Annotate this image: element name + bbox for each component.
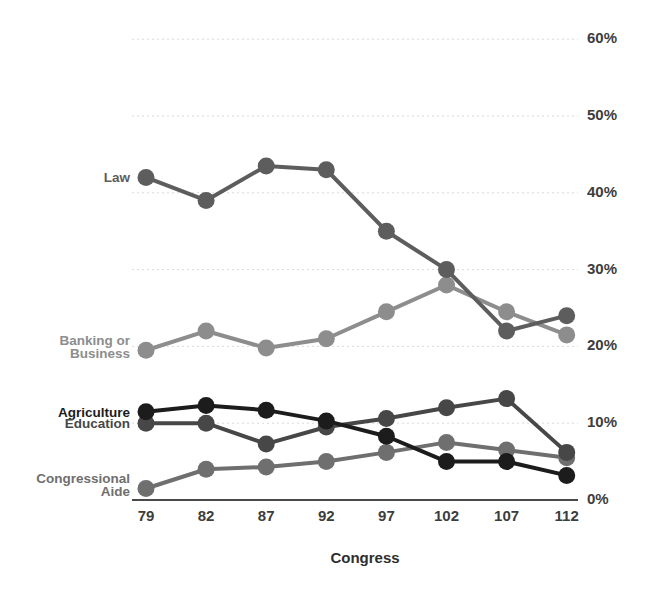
- data-point[interactable]: [378, 428, 395, 445]
- x-axis-tick-labels: 7982879297102107112: [138, 507, 579, 524]
- y-tick-label: 60%: [587, 29, 617, 46]
- data-point[interactable]: [258, 458, 275, 475]
- data-point[interactable]: [318, 412, 335, 429]
- data-point[interactable]: [438, 453, 455, 470]
- data-point[interactable]: [138, 342, 155, 359]
- data-point[interactable]: [498, 453, 515, 470]
- y-tick-label: 40%: [587, 183, 617, 200]
- y-tick-label: 10%: [587, 413, 617, 430]
- data-point[interactable]: [198, 461, 215, 478]
- data-point[interactable]: [318, 453, 335, 470]
- series-label-education: Education: [65, 416, 130, 431]
- x-tick-label: 112: [555, 507, 579, 524]
- x-tick-label: 107: [494, 507, 519, 524]
- data-point[interactable]: [138, 169, 155, 186]
- y-tick-label: 20%: [587, 336, 617, 353]
- data-point[interactable]: [258, 435, 275, 452]
- x-axis-title: Congress: [330, 549, 399, 566]
- data-point[interactable]: [378, 410, 395, 427]
- data-point[interactable]: [438, 261, 455, 278]
- data-point[interactable]: [378, 223, 395, 240]
- data-point[interactable]: [558, 326, 575, 343]
- y-tick-label: 50%: [587, 106, 617, 123]
- series-label-law: Law: [104, 170, 131, 185]
- data-point[interactable]: [438, 434, 455, 451]
- data-point[interactable]: [558, 444, 575, 461]
- data-point[interactable]: [318, 161, 335, 178]
- data-point[interactable]: [198, 192, 215, 209]
- series-label-banking-or-business: Banking orBusiness: [59, 333, 130, 361]
- data-point[interactable]: [258, 339, 275, 356]
- data-point[interactable]: [438, 399, 455, 416]
- line-chart: 0%10%20%30%40%50%60% 7982879297102107112…: [0, 0, 646, 598]
- chart-canvas: 0%10%20%30%40%50%60% 7982879297102107112…: [0, 0, 646, 598]
- series-inline-labels: LawBanking orBusinessAgricultureEducatio…: [36, 170, 131, 499]
- data-point[interactable]: [198, 397, 215, 414]
- x-tick-label: 87: [258, 507, 275, 524]
- x-tick-label: 97: [378, 507, 395, 524]
- data-point[interactable]: [558, 307, 575, 324]
- data-point[interactable]: [138, 403, 155, 420]
- data-point[interactable]: [498, 390, 515, 407]
- data-point[interactable]: [198, 323, 215, 340]
- data-point[interactable]: [438, 276, 455, 293]
- x-tick-label: 92: [318, 507, 335, 524]
- gridlines-group: [132, 39, 578, 423]
- x-tick-label: 82: [198, 507, 215, 524]
- data-point[interactable]: [258, 157, 275, 174]
- data-point[interactable]: [558, 467, 575, 484]
- y-tick-label: 30%: [587, 260, 617, 277]
- data-point[interactable]: [498, 303, 515, 320]
- data-point[interactable]: [138, 480, 155, 497]
- series-label-congressional-aide: CongressionalAide: [36, 471, 130, 499]
- data-point[interactable]: [258, 402, 275, 419]
- data-point[interactable]: [318, 330, 335, 347]
- y-axis-tick-labels: 0%10%20%30%40%50%60%: [587, 29, 617, 507]
- x-tick-label: 79: [138, 507, 155, 524]
- x-tick-label: 102: [434, 507, 459, 524]
- data-point[interactable]: [198, 415, 215, 432]
- data-point[interactable]: [378, 444, 395, 461]
- y-tick-label: 0%: [587, 490, 609, 507]
- data-point[interactable]: [378, 303, 395, 320]
- data-point[interactable]: [498, 323, 515, 340]
